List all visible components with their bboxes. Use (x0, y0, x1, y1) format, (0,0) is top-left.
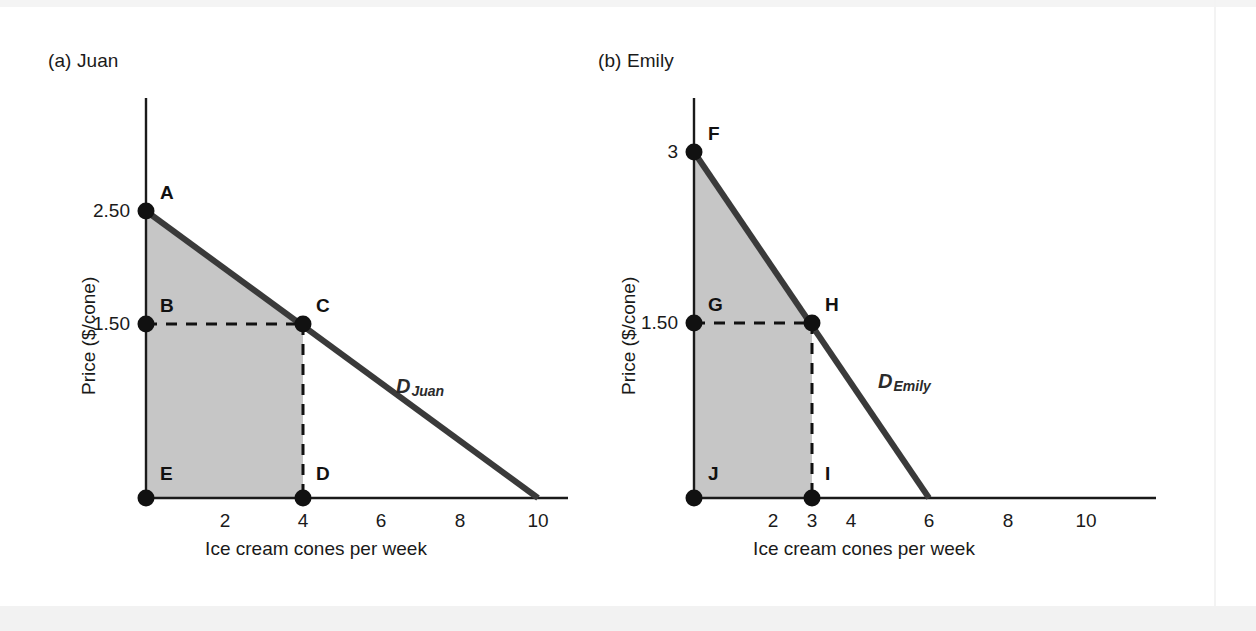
point-label-b: B (160, 295, 174, 317)
page-band-bottom (0, 606, 1256, 631)
x-tick-label-juan-2: 2 (220, 510, 231, 532)
y-tick-label-emily-150: 1.50 (596, 312, 678, 334)
shaded-surplus-region-juan (146, 211, 303, 498)
x-tick-label-emily-2: 2 (768, 510, 779, 532)
x-axis-title-emily: Ice cream cones per week (674, 538, 1054, 560)
x-tick-label-emily-3: 3 (807, 510, 818, 532)
point-label-d: D (316, 463, 330, 485)
point-marker-j (686, 490, 703, 507)
point-marker-h (804, 315, 821, 332)
plot-area-emily (590, 0, 1216, 606)
y-tick-label-juan-150: 1.50 (48, 313, 130, 335)
point-label-j: J (708, 463, 719, 485)
point-marker-e (138, 490, 155, 507)
x-tick-label-juan-6: 6 (376, 510, 387, 532)
x-tick-label-emily-10: 10 (1075, 510, 1096, 532)
curve-label-emily-base: D (878, 370, 892, 392)
curve-label-juan-sub: Juan (411, 383, 444, 399)
y-tick-label-juan-250: 2.50 (48, 200, 130, 222)
x-tick-label-emily-8: 8 (1003, 510, 1014, 532)
point-label-e: E (160, 463, 173, 485)
curve-label-juan-base: D (396, 375, 410, 397)
x-tick-label-juan-10: 10 (527, 510, 548, 532)
chart-panel-juan: (a) Juan Price ($/cone) 2.50 1.50 2 (0, 0, 600, 606)
point-label-h: H (825, 294, 839, 316)
point-label-c: C (316, 295, 330, 317)
x-tick-label-emily-4: 4 (846, 510, 857, 532)
x-tick-label-juan-8: 8 (455, 510, 466, 532)
point-marker-i (804, 490, 821, 507)
shaded-surplus-region-emily (694, 152, 812, 498)
curve-label-juan: DJuan (396, 375, 443, 398)
point-label-a: A (160, 182, 174, 204)
x-axis-title-juan: Ice cream cones per week (126, 538, 506, 560)
curve-label-emily-sub: Emily (893, 378, 930, 394)
y-tick-label-emily-3: 3 (596, 141, 678, 163)
point-marker-c (295, 316, 312, 333)
x-tick-label-emily-6: 6 (924, 510, 935, 532)
chart-panel-emily: (b) Emily Price ($/cone) 3 1.50 2 (590, 0, 1216, 606)
point-marker-b (138, 316, 155, 333)
curve-label-emily: DEmily (878, 370, 930, 393)
x-tick-label-juan-4: 4 (298, 510, 309, 532)
point-label-f: F (708, 123, 720, 145)
point-label-i: I (825, 463, 830, 485)
point-marker-g (686, 315, 703, 332)
point-marker-f (686, 144, 703, 161)
point-marker-a (138, 203, 155, 220)
figure-root: (a) Juan Price ($/cone) 2.50 1.50 2 (0, 0, 1256, 631)
point-marker-d (295, 490, 312, 507)
point-label-g: G (708, 294, 723, 316)
